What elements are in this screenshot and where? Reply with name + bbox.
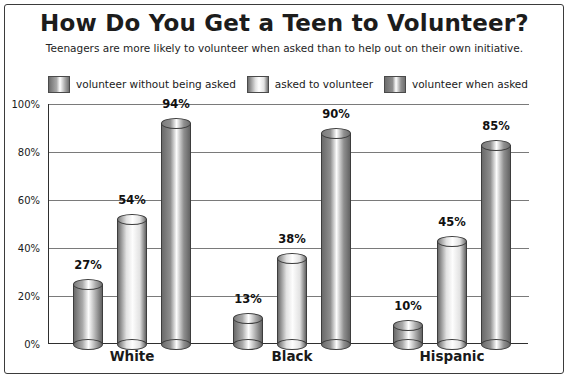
y-tick-label: 40% (18, 243, 40, 254)
bar-body (73, 284, 103, 344)
bar-value-label: 13% (234, 292, 262, 306)
bar-value-label: 94% (162, 97, 190, 111)
bar-top-cap (481, 140, 511, 151)
y-tick-label: 20% (18, 291, 40, 302)
bar (277, 253, 307, 344)
bar-value-label: 38% (278, 232, 306, 246)
chart-legend: volunteer without being asked asked to v… (48, 73, 528, 95)
bar-value-label: 10% (394, 299, 422, 313)
x-axis-category-labels: WhiteBlackHispanic (48, 348, 528, 370)
bar (233, 313, 263, 344)
legend-item-1: asked to volunteer (247, 76, 373, 93)
bar (73, 279, 103, 344)
category-label: Hispanic (420, 348, 485, 364)
bar-value-label: 85% (482, 119, 510, 133)
bar-top-cap (277, 253, 307, 264)
category-label: White (110, 348, 155, 364)
bar (161, 118, 191, 344)
legend-swatch-0 (48, 76, 70, 93)
bar-value-label: 54% (118, 193, 146, 207)
bar-body (277, 258, 307, 344)
y-axis-ticks: 0%20%40%60%80%100% (0, 104, 44, 344)
y-tick-label: 100% (11, 99, 40, 110)
bar-value-label: 45% (438, 215, 466, 229)
legend-label-1: asked to volunteer (275, 78, 373, 90)
bar-body (481, 145, 511, 344)
legend-label-0: volunteer without being asked (76, 78, 236, 90)
bar-top-cap (437, 236, 467, 247)
chart-subtitle: Teenagers are more likely to volunteer w… (0, 42, 569, 54)
bar-body (161, 123, 191, 344)
legend-swatch-1 (247, 76, 269, 93)
category-label: Black (271, 348, 312, 364)
bar (117, 214, 147, 344)
bar (437, 236, 467, 344)
legend-label-2: volunteer when asked (412, 78, 528, 90)
chart-container: How Do You Get a Teen to Volunteer? Teen… (0, 0, 569, 379)
y-tick-label: 0% (24, 339, 40, 350)
y-tick-label: 80% (18, 147, 40, 158)
bar (321, 128, 351, 344)
legend-item-0: volunteer without being asked (48, 76, 236, 93)
legend-swatch-2 (384, 76, 406, 93)
bar-top-cap (393, 320, 423, 331)
bar-body (117, 219, 147, 344)
bar-top-cap (233, 313, 263, 324)
bar-top-cap (321, 128, 351, 139)
bar (481, 140, 511, 344)
bar-body (321, 133, 351, 344)
bar-value-label: 90% (322, 107, 350, 121)
bars-layer: 27%54%94%13%38%90%10%45%85% (48, 104, 528, 344)
bar-value-label: 27% (74, 258, 102, 272)
bar-body (437, 241, 467, 344)
bar (393, 320, 423, 344)
y-tick-label: 60% (18, 195, 40, 206)
chart-title: How Do You Get a Teen to Volunteer? (0, 10, 569, 36)
legend-item-2: volunteer when asked (384, 76, 528, 93)
